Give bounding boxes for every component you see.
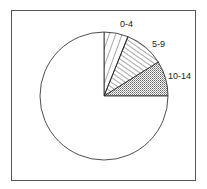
slice-label-10-14: 10-14 xyxy=(168,71,191,81)
slice-label-5-9: 5-9 xyxy=(152,39,165,49)
pie-group xyxy=(40,32,168,160)
pie-chart: 0-4 5-9 10-14 xyxy=(0,0,207,189)
slice-label-0-4: 0-4 xyxy=(120,19,133,29)
